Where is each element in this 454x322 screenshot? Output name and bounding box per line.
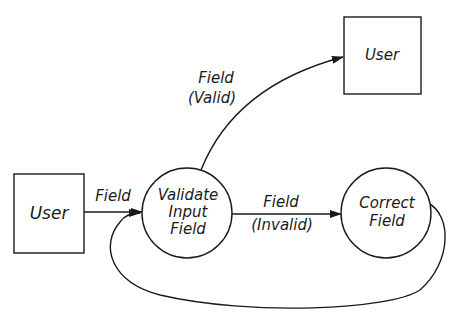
node-label-line: Input [169,203,209,221]
edge-label: Field [263,193,299,211]
node-label-line: Correct [359,194,415,212]
node-label-line: Field [170,220,206,238]
node-user-source: User [14,174,84,253]
edge-label: (Invalid) [251,216,313,234]
edge-label: Field [95,187,131,205]
node-label-line: Validate [158,186,219,204]
node-validate-input-field: Validate Input Field [142,168,232,258]
data-flow-diagram: User Validate Input Field Correct Field … [0,0,454,322]
node-label: User [30,203,70,223]
node-correct-field: Correct Field [341,168,431,258]
node-label: User [365,46,400,64]
edge-label: (Valid) [188,89,236,107]
node-user-sink: User [344,17,421,94]
node-label-line: Field [369,212,405,230]
edge-label: Field [198,69,234,87]
